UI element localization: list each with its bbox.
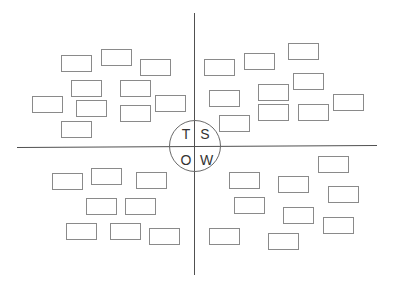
empty-box [229,172,260,189]
empty-box [318,156,349,173]
letter-t: T [180,127,192,141]
empty-box [209,90,240,107]
empty-box [140,59,171,76]
empty-box [234,197,265,214]
empty-box [71,80,102,97]
empty-box [244,53,275,70]
empty-box [333,94,364,111]
empty-box [61,55,92,72]
empty-box [278,176,309,193]
center-circle [169,120,221,172]
empty-box [149,228,180,245]
empty-box [52,173,83,190]
empty-box [323,217,354,234]
empty-box [283,207,314,224]
swot-diagram: T S O W [0,0,393,285]
empty-box [120,105,151,122]
empty-box [110,223,141,240]
empty-box [328,186,359,203]
empty-box [101,49,132,66]
empty-box [268,233,299,250]
empty-box [61,121,92,138]
empty-box [125,198,156,215]
letter-o: O [180,153,192,167]
letter-s: S [199,127,211,141]
empty-box [258,84,289,101]
letter-w: W [200,153,212,167]
empty-box [209,228,240,245]
empty-box [298,104,329,121]
empty-box [91,168,122,185]
empty-box [155,95,186,112]
empty-box [76,100,107,117]
empty-box [293,73,324,90]
empty-box [136,172,167,189]
empty-box [204,59,235,76]
empty-box [258,104,289,121]
empty-box [219,115,250,132]
empty-box [66,223,97,240]
empty-box [288,43,319,60]
empty-box [120,80,151,97]
empty-box [86,198,117,215]
empty-box [32,96,63,113]
